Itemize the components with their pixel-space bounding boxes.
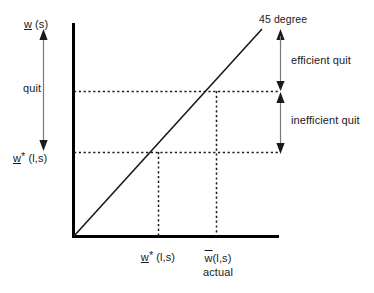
y-axis-tick-label-wstar: w*(l,s) xyxy=(13,150,47,165)
y-axis-label-w: w xyxy=(24,19,32,30)
y-tick-args: (l,s) xyxy=(28,152,47,164)
x-tick1-w: w xyxy=(141,252,149,263)
y-axis-label: w(s) xyxy=(24,18,48,31)
efficient-quit-label: efficient quit xyxy=(291,54,351,67)
forty-five-degree-label: 45 degree xyxy=(259,13,307,26)
x-axis-tick-label-actual: w(l,s) xyxy=(205,250,232,265)
y-tick-w: w xyxy=(13,153,21,164)
x-tick2-w: w xyxy=(205,250,213,264)
inefficient-quit-label: inefficient quit xyxy=(291,114,360,127)
x-axis-tick-label-wstar: w*(l,s) xyxy=(141,249,175,264)
forty-five-degree-line xyxy=(74,29,262,236)
x-tick1-star: * xyxy=(149,249,153,261)
inefficient-quit-arrow-head-up xyxy=(276,92,284,103)
diagram-canvas xyxy=(0,0,374,293)
quit-label: quit xyxy=(23,82,41,95)
x-tick1-args: (l,s) xyxy=(156,251,175,263)
y-tick-star: * xyxy=(21,150,25,162)
y-axis-label-args: (s) xyxy=(35,18,48,30)
actual-label: actual xyxy=(203,266,233,279)
efficient-quit-arrow-head-down xyxy=(276,81,284,91)
x-tick2-args: (l,s) xyxy=(213,252,232,264)
quit-diagram-figure: w(s) quit w*(l,s) 45 degree efficient qu… xyxy=(0,0,374,293)
